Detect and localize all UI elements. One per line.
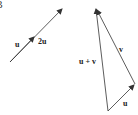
- vector-u-plus-v: [96, 9, 108, 111]
- left-figure: u 2u: [10, 9, 62, 62]
- label-u-right: u: [123, 99, 128, 108]
- vector-u: [10, 37, 34, 62]
- label-2u: 2u: [38, 37, 47, 46]
- vector-v: [97, 10, 135, 84]
- vector-u-right: [108, 85, 134, 111]
- vector-diagram: B u 2u u + v v u: [0, 0, 138, 115]
- right-figure: u + v v u: [79, 9, 135, 111]
- corner-label: B: [0, 0, 3, 10]
- label-u-plus-v: u + v: [79, 57, 96, 66]
- label-u: u: [15, 40, 20, 49]
- label-v: v: [119, 45, 123, 54]
